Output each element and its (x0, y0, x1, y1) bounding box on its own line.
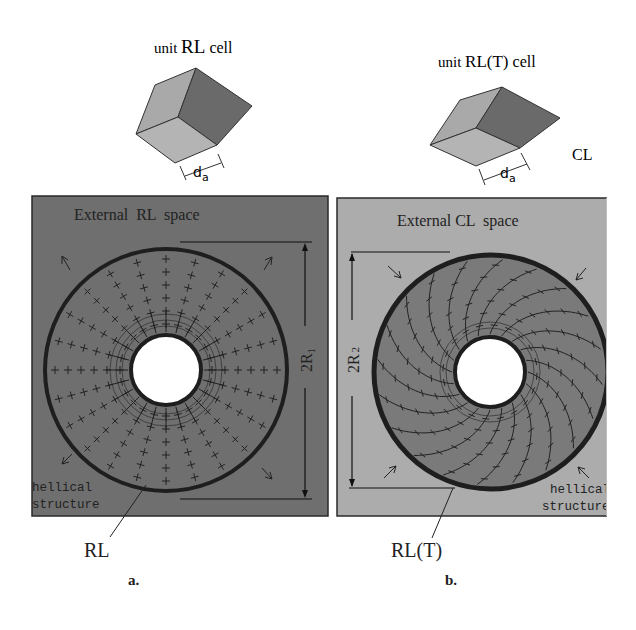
rlt-cell-cube-icon (430, 87, 560, 166)
unit-rlt-cell-title: unit RL(T) cell (438, 52, 536, 71)
rlt-center-hole (455, 337, 525, 407)
panel-b-cl-space: External CL space 2R2 hellical structure (337, 198, 636, 516)
unit-rl-cell-group: unit RL cell da (136, 36, 252, 184)
unit-rlt-cell-group: unit RL(T) cell da CL (430, 52, 592, 185)
rl-layer-label: RL (84, 539, 110, 561)
rl-cell-cube-icon (136, 68, 252, 163)
unit-rl-cell-title: unit RL cell (154, 36, 233, 57)
figure: unit RL cell da unit RL(T) cell da (0, 0, 636, 630)
cl-side-label: CL (572, 146, 592, 163)
rlt-helical-label-line2: structure (542, 500, 610, 514)
right-margin (607, 190, 636, 530)
rl-helical-label-line1: hellical (32, 481, 92, 495)
rl-cell-dimension-label: da (193, 164, 209, 184)
cl-space-label: External CL space (397, 212, 519, 230)
rl-center-hole (131, 335, 201, 405)
panel-a-rl-space: External RL space 2R1 hellical structure (32, 196, 328, 516)
rl-space-label: External RL space (74, 206, 200, 224)
rl-helical-label-line2: structure (32, 498, 100, 512)
rlt-helical-label-line1: hellical (550, 483, 610, 497)
rlt-cell-dimension-label: da (500, 165, 516, 185)
panel-b-letter: b. (445, 572, 457, 588)
rlt-layer-label: RL(T) (391, 539, 442, 562)
panel-a-letter: a. (128, 572, 140, 588)
